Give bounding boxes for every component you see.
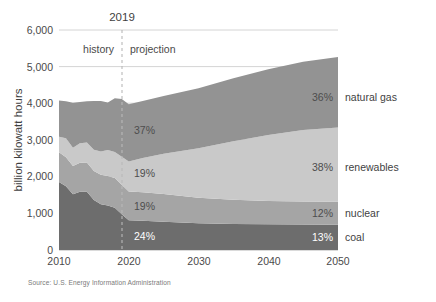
x-tick-2050: 2050	[326, 255, 350, 267]
end-pct-natural-gas: 36%	[312, 91, 333, 103]
x-tick-2010: 2010	[47, 255, 71, 267]
y-tick-2000: 2,000	[27, 170, 53, 182]
inner-pct-natural-gas: 37%	[134, 124, 155, 136]
y-tick-0: 0	[47, 244, 53, 256]
legend-label-coal: coal	[345, 231, 364, 243]
x-tick-2040: 2040	[257, 255, 281, 267]
divider-year-label: 2019	[109, 11, 135, 23]
source-note: Source: U.S. Energy Information Administ…	[28, 279, 171, 286]
projection-label: projection	[130, 43, 176, 55]
x-tick-2020: 2020	[117, 255, 141, 267]
x-tick-2030: 2030	[187, 255, 211, 267]
legend-label-nuclear: nuclear	[345, 207, 380, 219]
y-tick-5000: 5,000	[27, 61, 53, 73]
legend-label-natural-gas: natural gas	[345, 91, 397, 103]
y-tick-3000: 3,000	[27, 134, 53, 146]
end-pct-renewables: 38%	[312, 161, 333, 173]
y-tick-4000: 4,000	[27, 97, 53, 109]
end-pct-coal: 13%	[312, 231, 333, 243]
inner-pct-coal: 24%	[134, 230, 155, 242]
inner-pct-nuclear: 19%	[134, 200, 155, 212]
y-tick-6000: 6,000	[27, 24, 53, 36]
history-label: history	[83, 43, 115, 55]
y-axis-label: billion kilowatt hours	[12, 88, 24, 191]
inner-pct-renewables: 19%	[134, 167, 155, 179]
end-pct-nuclear: 12%	[312, 207, 333, 219]
y-tick-1000: 1,000	[27, 207, 53, 219]
stacked-area-chart: 6,000 5,000 4,000 3,000 2,000 1,000 0 bi…	[0, 0, 436, 302]
chart-container: 6,000 5,000 4,000 3,000 2,000 1,000 0 bi…	[0, 0, 436, 302]
legend-label-renewables: renewables	[345, 161, 399, 173]
